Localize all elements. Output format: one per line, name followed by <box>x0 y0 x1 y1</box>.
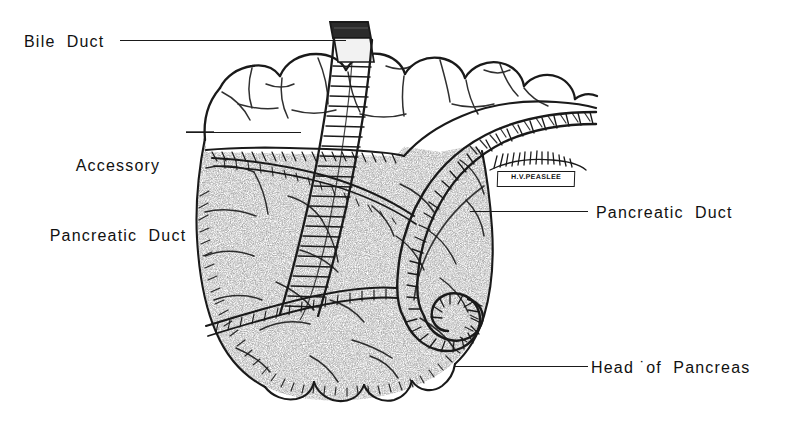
label-bile-duct: Bile Duct <box>24 30 104 53</box>
label-head-of-pancreas: Head ˙of Pancreas <box>591 356 750 379</box>
artist-signature-block: H.V.PEASLEE <box>497 171 576 187</box>
leader-line-head-of-pancreas <box>455 366 588 367</box>
leader-line-bile-duct <box>120 40 346 41</box>
artist-signature-text: H.V.PEASLEE <box>498 172 574 181</box>
label-accessory-line1: Accessory <box>50 154 186 177</box>
leader-line-pancreatic-duct <box>470 211 588 212</box>
label-accessory-pancreatic-duct: Accessory Pancreatic Duct <box>50 108 186 294</box>
label-pancreatic-duct: Pancreatic Duct <box>596 201 733 224</box>
leader-line-accessory-pancreatic-duct <box>186 132 301 133</box>
figure-canvas: Bile Duct Accessory Pancreatic Duct Panc… <box>0 0 797 421</box>
label-accessory-line2: Pancreatic Duct <box>26 224 210 247</box>
